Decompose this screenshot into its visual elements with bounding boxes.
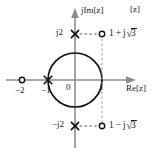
tick-label-origin: 0: [66, 83, 71, 92]
annotation-lower-zero-prefix: 1 − j: [109, 120, 126, 130]
radicand-lower: 3: [131, 120, 137, 131]
annotation-upper-zero-prefix: 1 + j: [109, 28, 126, 38]
imag-axis-arrowhead: [71, 8, 79, 18]
annotation-lower-zero-radical: √3: [126, 120, 137, 131]
annotation-upper-zero: 1 + j√3: [109, 28, 137, 39]
tick-label-neg1: −1: [41, 86, 51, 95]
real-axis-label: Re[z]: [126, 84, 146, 93]
tick-label-j2: j2: [56, 28, 63, 37]
zero-marker-upper: [99, 31, 104, 36]
radicand-upper: 3: [131, 28, 137, 39]
tick-label-pos1: 1: [99, 83, 104, 92]
pole-zero-diagram: [z] jIm[z] Re[z] j2 −j2 −2 −1 0 1 1 + j√…: [0, 0, 156, 156]
plane-label: [z]: [130, 5, 140, 14]
imag-axis-label: jIm[z]: [81, 6, 104, 15]
zero-marker-neg2: [19, 77, 24, 82]
tick-label-neg2: −2: [15, 86, 25, 95]
tick-label-neg-j2: −j2: [52, 120, 64, 129]
zero-marker-lower: [99, 123, 104, 128]
plot-canvas: [0, 0, 156, 156]
annotation-upper-zero-radical: √3: [126, 28, 137, 39]
annotation-lower-zero: 1 − j√3: [109, 120, 137, 131]
